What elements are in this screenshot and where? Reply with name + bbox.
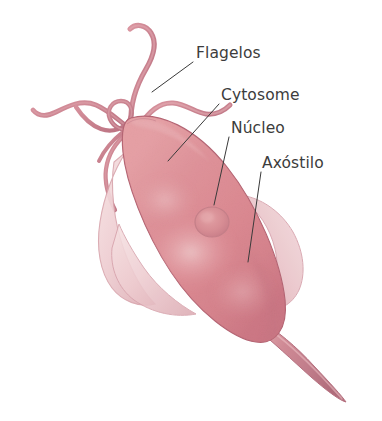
- trichomonas-diagram: Flagelos Cytosome Núcleo Axóstilo: [0, 0, 382, 421]
- label-flagelos: Flagelos: [196, 44, 261, 62]
- nucleus: [195, 207, 229, 237]
- label-axostilo: Axóstilo: [262, 154, 324, 172]
- nucleus-highlight: [200, 212, 214, 223]
- label-cytosome: Cytosome: [221, 86, 300, 104]
- label-nucleo: Núcleo: [231, 119, 285, 137]
- nucleus-shape: [195, 207, 229, 237]
